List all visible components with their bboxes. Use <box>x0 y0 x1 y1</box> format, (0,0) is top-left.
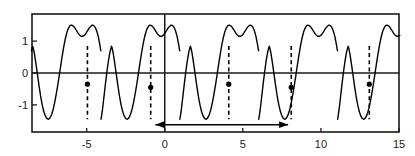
chart-figure: -5051015 -101 <box>0 0 415 156</box>
discontinuity-dot-marker <box>148 85 153 90</box>
x-tick-label: 5 <box>240 138 246 150</box>
y-tick-label: 0 <box>22 67 28 79</box>
x-tick-label: 10 <box>315 138 327 150</box>
discontinuity-dot-marker <box>226 82 231 87</box>
x-tick-label: -5 <box>82 138 92 150</box>
x-axis-tick-labels: -5051015 <box>82 138 405 150</box>
waveform-plot: -5051015 -101 <box>0 0 415 156</box>
discontinuity-dot-marker <box>289 85 294 90</box>
y-tick-label: -1 <box>18 99 28 111</box>
y-tick-label: 1 <box>22 35 28 47</box>
discontinuity-dot-marker <box>85 82 90 87</box>
y-axis-tick-labels: -101 <box>18 35 28 111</box>
discontinuity-dot-marker <box>367 82 372 87</box>
x-tick-label: 15 <box>393 138 405 150</box>
x-tick-label: 0 <box>162 138 168 150</box>
